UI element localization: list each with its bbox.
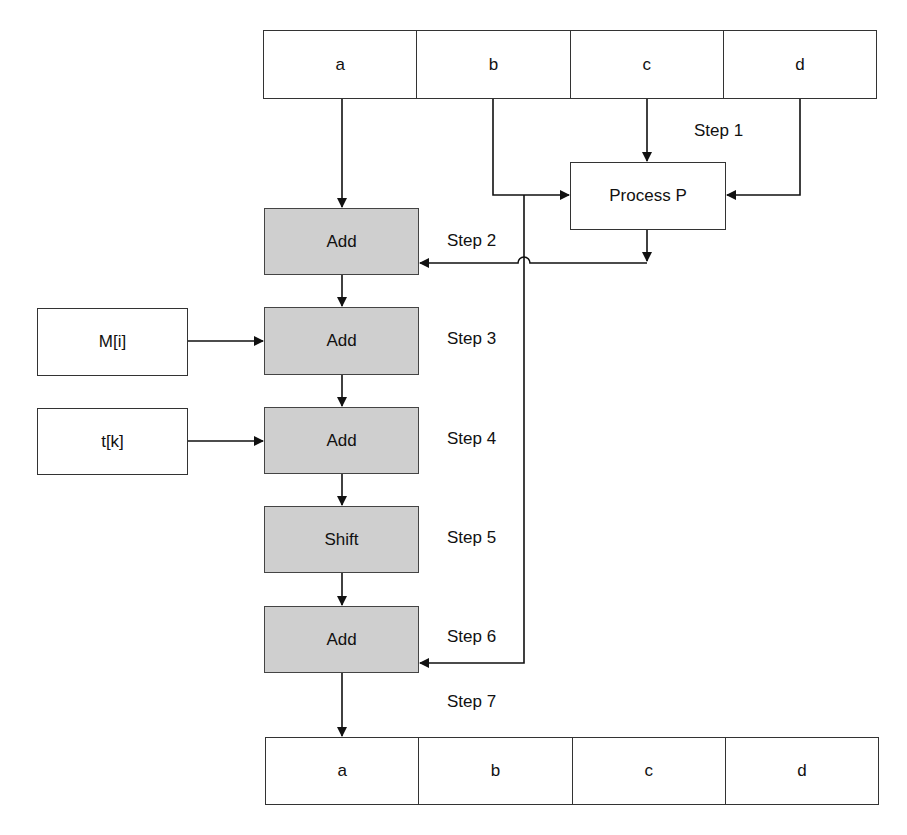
arrow-process-to-add [420,257,647,263]
connector-wires [0,0,907,835]
arrow-d-to-process [727,99,800,195]
arrow-b-to-process [493,99,569,195]
arrow-b-to-add-step6 [420,195,524,663]
